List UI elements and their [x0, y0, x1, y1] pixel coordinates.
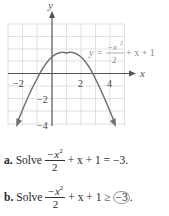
- parabola-graph: y x −2 2 4 −2 −4 y = −x 2 2 + x + 1: [0, 0, 169, 132]
- problem-b-rhs-circled: −3: [113, 191, 129, 204]
- problem-a-verb: Solve: [16, 154, 42, 166]
- exponent: 2: [60, 184, 64, 192]
- problem-a-fraction: −x2 2: [45, 148, 65, 173]
- y-axis-arrow-icon: [49, 11, 55, 18]
- svg-text:2: 2: [120, 40, 123, 46]
- problem-b-end: .: [130, 191, 133, 203]
- problem-a: a. Solve −x2 2 + x + 1 = −3.: [4, 148, 128, 173]
- svg-text:y =: y =: [88, 47, 103, 58]
- problem-b-middle: + x + 1 ≥: [68, 191, 110, 203]
- x-axis-label: x: [139, 67, 145, 79]
- problem-a-end: .: [125, 154, 128, 166]
- problem-a-label: a.: [4, 154, 13, 166]
- numerator: −x: [47, 185, 59, 197]
- tick-y-neg2: −2: [37, 94, 48, 105]
- problem-b-fraction: −x2 2: [45, 185, 65, 210]
- svg-text:−x: −x: [107, 42, 117, 52]
- numerator: −x: [47, 148, 59, 160]
- denominator: 2: [52, 161, 58, 173]
- exponent: 2: [59, 147, 63, 155]
- x-axis-arrow-icon: [129, 71, 136, 77]
- svg-text:+ x + 1: + x + 1: [126, 47, 155, 58]
- problem-b-label: b.: [4, 191, 13, 203]
- tick-x-2: 2: [78, 78, 83, 89]
- axes: [8, 11, 136, 126]
- problem-b-verb: Solve: [16, 191, 42, 203]
- problem-a-rhs: −3: [113, 154, 125, 166]
- tick-y-neg4: −4: [37, 120, 48, 131]
- problem-a-middle: + x + 1 =: [68, 154, 110, 166]
- problem-b: b. Solve −x2 2 + x + 1 ≥ −3.: [4, 185, 133, 210]
- svg-text:2: 2: [112, 55, 117, 65]
- y-axis-label: y: [47, 0, 53, 11]
- grid: [8, 24, 125, 126]
- tick-x-4: 4: [107, 78, 112, 89]
- tick-x-neg2: −2: [13, 78, 24, 89]
- denominator: 2: [53, 198, 59, 210]
